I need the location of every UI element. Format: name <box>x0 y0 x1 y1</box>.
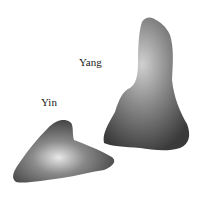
yin-label: Yin <box>41 97 57 108</box>
yin-stone <box>13 120 114 183</box>
yang-label: Yang <box>79 57 102 68</box>
stones-illustration <box>0 0 199 199</box>
yang-stone <box>104 18 190 151</box>
image-stage: Yang Yin <box>0 0 199 199</box>
